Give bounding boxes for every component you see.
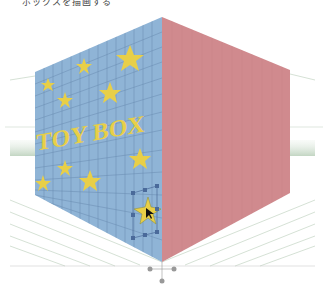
right-vanishing-handle-icon[interactable] — [172, 267, 177, 272]
box-left-face[interactable]: TOY BOX — [35, 0, 162, 291]
perspective-widget[interactable] — [148, 262, 177, 284]
ground-level-handle-icon[interactable] — [160, 279, 165, 284]
perspective-canvas[interactable]: TOY BOX — [0, 0, 328, 291]
left-vanishing-handle-icon[interactable] — [148, 267, 153, 272]
box-right-face[interactable] — [162, 0, 290, 291]
